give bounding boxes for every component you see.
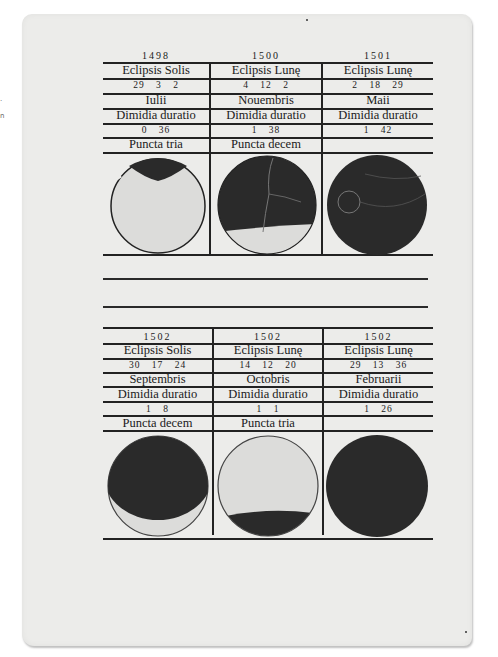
separator-rule bbox=[103, 306, 428, 308]
eclipse-magnitude: Puncta tria bbox=[103, 137, 209, 152]
eclipse-month: Septembris bbox=[103, 372, 212, 387]
column-divider bbox=[322, 327, 324, 535]
duration-label: Dimidia duratio bbox=[324, 387, 433, 402]
lower-eclipse-table: 1502 Eclipsis Solis 30 17 24 Septembris … bbox=[103, 312, 433, 540]
duration-label: Dimidia duratio bbox=[214, 387, 322, 402]
margin-mark: n bbox=[0, 112, 4, 120]
eclipse-time: 14 12 20 bbox=[214, 360, 322, 370]
half-duration: 1 26 bbox=[324, 404, 433, 414]
paper-speck bbox=[306, 19, 308, 21]
eclipse-diagram-lunar-total bbox=[325, 154, 429, 256]
eclipse-time: 30 17 24 bbox=[103, 360, 212, 370]
eclipse-year: 1502 bbox=[214, 331, 322, 342]
column-divider bbox=[321, 62, 323, 254]
upper-eclipse-table: 1498 Eclipsis Solis 29 3 2 Iulii Dimidia… bbox=[103, 46, 433, 256]
column-divider bbox=[212, 327, 214, 535]
margin-mark: . bbox=[0, 95, 2, 103]
half-duration: 1 38 bbox=[211, 125, 321, 135]
rule bbox=[103, 327, 433, 329]
rule bbox=[103, 538, 433, 540]
eclipse-diagram-lunar-total bbox=[325, 434, 429, 538]
separator-rule bbox=[103, 278, 428, 280]
eclipse-year: 1498 bbox=[103, 50, 209, 61]
eclipse-type: Eclipsis Solis bbox=[103, 63, 209, 78]
eclipse-month: Octobris bbox=[214, 372, 322, 387]
column-divider bbox=[209, 62, 211, 254]
eclipse-year: 1502 bbox=[324, 331, 433, 342]
eclipse-type: Eclipsis Lunę bbox=[324, 343, 433, 358]
eclipse-month: Februarii bbox=[324, 372, 433, 387]
duration-label: Dimidia duratio bbox=[323, 108, 433, 123]
eclipse-time: 2 18 29 bbox=[323, 80, 433, 90]
eclipse-diagram-solar-partial bbox=[107, 154, 209, 256]
eclipse-time: 29 13 36 bbox=[324, 360, 433, 370]
duration-label: Dimidia duratio bbox=[211, 108, 321, 123]
eclipse-month: Iulii bbox=[103, 93, 209, 108]
eclipse-type: Eclipsis Lunę bbox=[211, 63, 321, 78]
eclipse-type: Eclipsis Lunę bbox=[323, 63, 433, 78]
half-duration: 0 36 bbox=[103, 125, 209, 135]
eclipse-diagram-lunar-partial bbox=[215, 154, 319, 256]
eclipse-time: 29 3 2 bbox=[103, 80, 209, 90]
eclipse-magnitude: Puncta decem bbox=[211, 137, 321, 152]
eclipse-magnitude: Puncta decem bbox=[103, 416, 212, 431]
half-duration: 1 42 bbox=[323, 125, 433, 135]
paper-speck bbox=[465, 631, 467, 633]
duration-label: Dimidia duratio bbox=[103, 387, 212, 402]
eclipse-year: 1500 bbox=[211, 50, 321, 61]
eclipse-magnitude: Puncta tria bbox=[214, 416, 322, 431]
eclipse-year: 1502 bbox=[103, 331, 212, 342]
eclipse-month: Nouembris bbox=[211, 93, 321, 108]
eclipse-type: Eclipsis Solis bbox=[103, 343, 212, 358]
duration-label: Dimidia duratio bbox=[103, 108, 209, 123]
eclipse-year: 1501 bbox=[323, 50, 433, 61]
half-duration: 1 1 bbox=[214, 404, 322, 414]
eclipse-diagram-solar-partial bbox=[105, 434, 211, 538]
half-duration: 1 8 bbox=[103, 404, 212, 414]
eclipse-month: Maii bbox=[323, 93, 433, 108]
eclipse-diagram-lunar-partial bbox=[216, 434, 320, 538]
eclipse-time: 4 12 2 bbox=[211, 80, 321, 90]
eclipse-type: Eclipsis Lunę bbox=[214, 343, 322, 358]
